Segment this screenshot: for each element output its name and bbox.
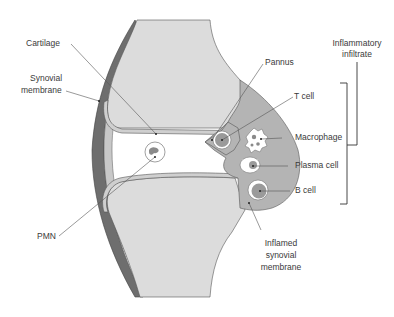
label-inflamed-2: synovial xyxy=(259,250,303,261)
label-inflamed-3: membrane xyxy=(259,262,303,273)
label-b-cell: B cell xyxy=(295,185,316,196)
label-t-cell: T cell xyxy=(294,91,314,102)
label-macrophage: Macrophage xyxy=(295,132,342,143)
label-pannus: Pannus xyxy=(265,57,294,68)
label-plasma-cell: Plasma cell xyxy=(295,160,338,171)
label-infiltrate-1: Inflammatory xyxy=(325,38,389,49)
infiltrate-bracket xyxy=(340,62,357,204)
label-cartilage: Cartilage xyxy=(26,38,60,49)
label-pmn: PMN xyxy=(37,231,56,242)
label-inflamed-1: Inflamed xyxy=(259,238,303,249)
label-synovial-membrane-2: membrane xyxy=(21,85,62,96)
label-infiltrate-2: infiltrate xyxy=(325,49,389,60)
label-synovial-membrane-1: Synovial xyxy=(30,73,62,84)
